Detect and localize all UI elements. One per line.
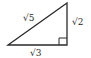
right-angle-marker [59,38,67,45]
vertical-leg-label: √2 [72,17,83,27]
base-label: √3 [30,48,42,58]
hypotenuse-label: √5 [23,13,35,23]
right-triangle [8,3,67,45]
triangle-diagram: √5 √2 √3 [0,0,91,58]
